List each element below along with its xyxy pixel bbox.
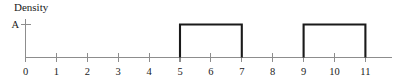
x-tick-label-11: 11	[360, 66, 370, 77]
density-plot-figure: Density A 0 1 2 3 4 5 6 7 8 9 10 11	[0, 0, 403, 80]
density-step-curve	[180, 25, 365, 58]
plot-canvas: Density A 0 1 2 3 4 5 6 7 8 9 10 11	[0, 0, 403, 80]
x-tick-label-0: 0	[23, 66, 28, 77]
x-tick-label-6: 6	[208, 66, 213, 77]
y-tick-label-A: A	[11, 19, 19, 30]
x-tick-label-2: 2	[85, 66, 90, 77]
x-tick-label-1: 1	[54, 66, 59, 77]
x-tick-label-3: 3	[116, 66, 121, 77]
x-tick-label-5: 5	[177, 66, 182, 77]
x-tick-label-7: 7	[239, 66, 244, 77]
x-tick-label-8: 8	[270, 66, 275, 77]
x-tick-label-4: 4	[146, 66, 152, 77]
x-tick-label-9: 9	[301, 66, 306, 77]
x-tick-label-10: 10	[329, 66, 340, 77]
y-axis-title: Density	[14, 1, 49, 13]
